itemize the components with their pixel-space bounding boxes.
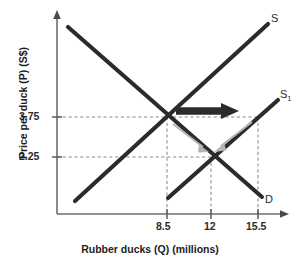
xtick-label-15-5: 15.5	[246, 220, 266, 232]
x-axis-title: Rubber ducks (Q) (millions)	[0, 243, 300, 255]
xtick-label-12: 12	[204, 220, 216, 232]
quantity-adjustment-arrow	[214, 122, 252, 152]
supply-demand-chart: 3.75 2.25 8.5 12 15.5 S S1 D Price per d…	[0, 0, 300, 267]
x-axis-arrowhead	[280, 210, 289, 218]
supply-shifted-curve-label: S1	[280, 88, 292, 103]
y-axis-arrowhead	[53, 10, 61, 19]
xtick-label-8-5: 8.5	[156, 220, 171, 232]
demand-curve-label: D	[265, 193, 273, 205]
supply-shifted-curve-label-sub: 1	[287, 94, 291, 103]
price-adjustment-arrow	[173, 124, 209, 153]
y-axis-title: Price per duck (P) (S$)	[17, 18, 29, 188]
supply-curve-label: S	[271, 12, 278, 24]
curves-group	[68, 24, 278, 201]
